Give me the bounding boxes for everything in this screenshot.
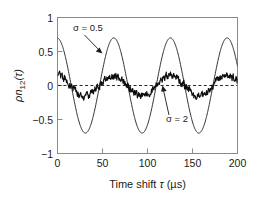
x-tick-label-0: 0 <box>55 157 61 169</box>
x-axis-title: Time shift τ (µs) <box>109 178 186 190</box>
x-tick-label-150: 150 <box>184 157 202 169</box>
annotation-sigma-05-label: σ = 0.5 <box>73 22 103 33</box>
y-tick-label-neg0.5: −0.5 <box>32 114 53 126</box>
y-tick-label-0.5: 0.5 <box>38 46 53 58</box>
x-tick-label-200: 200 <box>229 157 247 169</box>
figure-background <box>0 0 262 198</box>
x-tick-label-50: 50 <box>97 157 109 169</box>
chart-figure: 1 0.5 0 −0.5 −1 0 50 100 150 200 Time sh… <box>0 0 262 198</box>
y-tick-label-neg1: −1 <box>41 148 53 160</box>
y-tick-label-0: 0 <box>47 80 53 92</box>
x-tick-label-100: 100 <box>139 157 157 169</box>
y-tick-label-1: 1 <box>47 12 53 24</box>
